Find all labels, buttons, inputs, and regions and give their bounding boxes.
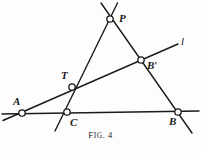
- figure-caption: FIG. 4: [0, 131, 201, 140]
- point-label-C: C: [70, 117, 77, 128]
- base-line: [2, 111, 199, 114]
- point-label-B: B: [169, 116, 176, 127]
- point-marker-P: [107, 16, 113, 22]
- point-marker-T: [69, 84, 75, 90]
- point-label-T: T: [61, 70, 68, 81]
- line-label-l: l: [181, 36, 184, 47]
- transversal-line-l: [3, 44, 178, 121]
- point-label-A: A: [13, 96, 20, 107]
- point-label-P: P: [119, 13, 126, 24]
- point-label-B-prime: B′: [147, 60, 157, 71]
- point-marker-A: [19, 110, 25, 116]
- point-marker-C: [64, 109, 70, 115]
- figure-container: P B′ T A C B l FIG. 4: [0, 0, 201, 154]
- point-marker-B-prime: [138, 57, 144, 63]
- caption-smallcaps: IG: [94, 131, 103, 140]
- caption-suffix: . 4: [103, 130, 113, 140]
